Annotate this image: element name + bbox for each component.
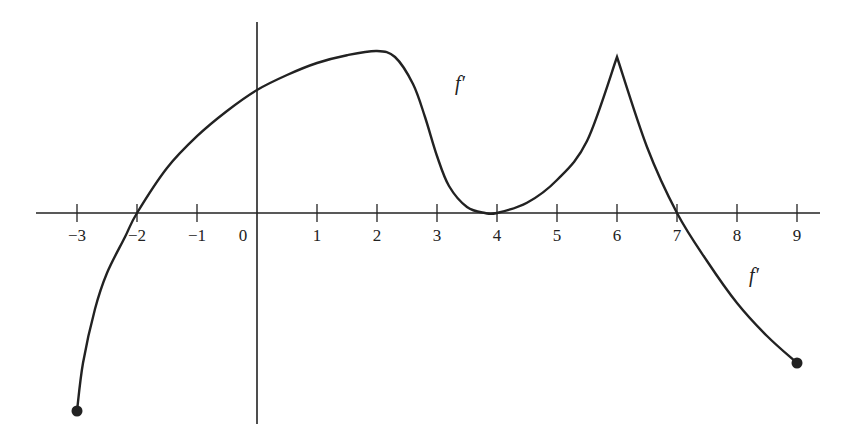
endpoint-dot xyxy=(72,406,83,417)
x-tick-label: 9 xyxy=(793,226,802,245)
x-tick-label: 4 xyxy=(493,226,502,245)
endpoint-dots xyxy=(72,358,803,417)
x-tick-label: −3 xyxy=(68,226,86,245)
curve-labels: f′f′ xyxy=(455,72,760,287)
x-tick-label: 1 xyxy=(313,226,322,245)
x-tick-label: 6 xyxy=(613,226,622,245)
x-tick-label: 3 xyxy=(433,226,442,245)
f-prime-label: f′ xyxy=(749,264,760,287)
f-prime-graph: −3−2−10123456789 f′f′ xyxy=(0,0,848,443)
x-tick-label: 8 xyxy=(733,226,742,245)
x-tick-label: 2 xyxy=(373,226,382,245)
endpoint-dot xyxy=(792,358,803,369)
f-prime-label: f′ xyxy=(455,72,466,95)
x-tick-label: −2 xyxy=(128,226,146,245)
x-tick-label: −1 xyxy=(188,226,206,245)
x-tick-label: 7 xyxy=(673,226,682,245)
x-tick-label: 0 xyxy=(239,226,248,245)
x-tick-label: 5 xyxy=(553,226,562,245)
